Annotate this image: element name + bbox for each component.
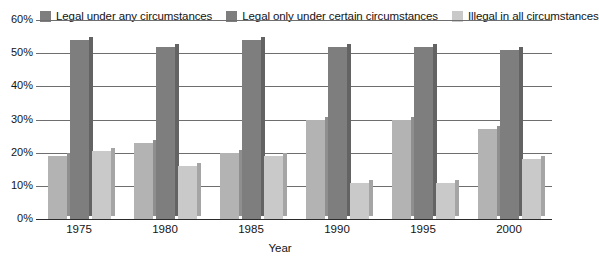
bar-front-face xyxy=(220,153,239,219)
y-axis-tick-label: 20% xyxy=(3,147,33,158)
bar xyxy=(392,120,411,220)
bar-front-face xyxy=(522,159,541,219)
bar-top-face xyxy=(433,44,437,47)
bar-front-face xyxy=(156,47,175,219)
x-axis-tick-label: 1975 xyxy=(36,222,122,236)
bar-front-face xyxy=(350,183,369,219)
bar-front-face xyxy=(264,156,283,219)
bar-front-face xyxy=(328,47,347,219)
bar xyxy=(328,47,347,219)
bar-group xyxy=(122,20,208,219)
bar-side-face xyxy=(111,148,115,216)
bar-front-face xyxy=(414,47,433,219)
bar-top-face xyxy=(283,153,287,156)
bar-side-face xyxy=(369,180,373,216)
bar xyxy=(178,166,197,219)
bar-group xyxy=(294,20,380,219)
bar-top-face xyxy=(89,37,93,40)
bar-front-face xyxy=(500,50,519,219)
y-axis-tick-label: 60% xyxy=(3,14,33,25)
bar-top-face xyxy=(519,47,523,50)
bar xyxy=(414,47,433,219)
bar xyxy=(350,183,369,219)
bar-front-face xyxy=(392,120,411,220)
axis-baseline xyxy=(36,219,552,220)
bar xyxy=(70,40,89,219)
x-axis-tick-label: 1980 xyxy=(122,222,208,236)
bar-top-face xyxy=(197,163,201,166)
bar-front-face xyxy=(48,156,67,219)
bar xyxy=(522,159,541,219)
bar-front-face xyxy=(242,40,261,219)
y-axis-labels: 0%10%20%30%40%50%60% xyxy=(0,0,33,266)
bar xyxy=(48,156,67,219)
bar xyxy=(436,183,455,219)
y-axis-tick-label: 30% xyxy=(3,114,33,125)
bar-front-face xyxy=(70,40,89,219)
y-axis-tick-label: 50% xyxy=(3,47,33,58)
bar-side-face xyxy=(455,180,459,216)
x-axis-tick-label: 1995 xyxy=(380,222,466,236)
bar-top-face xyxy=(455,180,459,183)
bar xyxy=(220,153,239,219)
bar-front-face xyxy=(478,129,497,219)
bar-front-face xyxy=(306,120,325,220)
x-axis-tick-label: 1990 xyxy=(294,222,380,236)
bar-group xyxy=(36,20,122,219)
plot-area xyxy=(36,20,552,219)
bar-top-face xyxy=(111,148,115,151)
bar-group xyxy=(466,20,552,219)
bar-top-face xyxy=(347,44,351,47)
x-axis-tick-label: 1985 xyxy=(208,222,294,236)
bar-front-face xyxy=(436,183,455,219)
x-axis-labels: 197519801985199019952000 xyxy=(36,222,552,238)
bar-front-face xyxy=(92,151,111,219)
bar xyxy=(500,50,519,219)
bar-side-face xyxy=(541,156,545,216)
bar-group xyxy=(208,20,294,219)
bar xyxy=(156,47,175,219)
bar-front-face xyxy=(178,166,197,219)
bars-layer xyxy=(36,20,552,219)
x-axis-tick-label: 2000 xyxy=(466,222,552,236)
bar-side-face xyxy=(197,163,201,216)
bar-group xyxy=(380,20,466,219)
y-axis-tick-label: 40% xyxy=(3,80,33,91)
bar xyxy=(134,143,153,219)
bar xyxy=(306,120,325,220)
bar xyxy=(478,129,497,219)
bar xyxy=(242,40,261,219)
y-axis-tick-label: 10% xyxy=(3,180,33,191)
bar xyxy=(264,156,283,219)
bar-front-face xyxy=(134,143,153,219)
bar-top-face xyxy=(175,44,179,47)
bar xyxy=(92,151,111,219)
x-axis-title: Year xyxy=(0,241,560,255)
bar-top-face xyxy=(261,37,265,40)
bar-top-face xyxy=(369,180,373,183)
bar-side-face xyxy=(283,153,287,216)
y-axis-tick-label: 0% xyxy=(3,213,33,224)
bar-top-face xyxy=(541,156,545,159)
